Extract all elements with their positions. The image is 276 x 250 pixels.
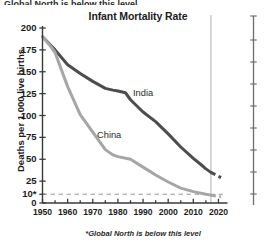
series-label-china: China: [97, 130, 121, 140]
chart-annotations: [43, 15, 226, 203]
y-tick-label: 50: [0, 154, 37, 164]
x-tick-label: 2020: [203, 208, 233, 217]
chart-footnote: *Global North is below this level: [48, 229, 238, 238]
series-label-india: India: [133, 88, 153, 98]
chart-axis-lines: [43, 26, 228, 203]
y-tick-label: 25: [0, 176, 37, 186]
y-tick-label: 200: [0, 23, 37, 33]
chart-series-lines: [43, 37, 221, 197]
y-tick-label: 100: [0, 111, 37, 121]
y-tick-label: 125: [0, 89, 37, 99]
adjacent-chart-axis-fragment: [250, 16, 256, 205]
y-tick-label: 75: [0, 132, 37, 142]
y-tick-label: 10*: [0, 189, 37, 199]
y-tick-label: 0: [0, 198, 37, 208]
y-tick-label: 150: [0, 67, 37, 77]
y-tick-label: 175: [0, 45, 37, 55]
